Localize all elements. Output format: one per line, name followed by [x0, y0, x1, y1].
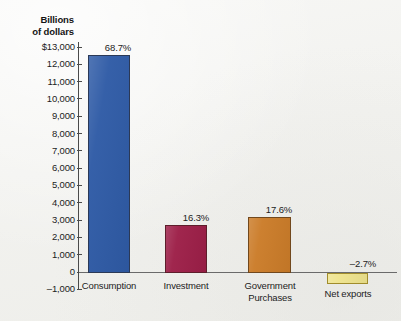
- y-tick-13000: $13,000: [0, 41, 86, 53]
- y-tick-0: 0: [0, 266, 86, 278]
- bar-sheen: [328, 274, 367, 283]
- bar-sheen: [166, 226, 206, 272]
- y-tick-10000: 10,000: [0, 93, 86, 105]
- y-tick-6000: 6,000: [0, 162, 86, 174]
- y-tick-label: 9,000: [3, 110, 75, 122]
- y-tick-1000: 1,000: [0, 249, 86, 261]
- bar-group-net-exports: –2.7% Net exports: [319, 42, 397, 290]
- bar-consumption[interactable]: [88, 55, 130, 273]
- y-tick-label: 7,000: [3, 145, 75, 157]
- y-tick-3000: 3,000: [0, 214, 86, 226]
- bar-net-exports[interactable]: [327, 273, 368, 284]
- y-tick-label: 0: [3, 266, 75, 278]
- bar-group-government-purchases: 17.6% Government Purchases: [235, 42, 319, 290]
- bar-sheen: [249, 218, 290, 272]
- y-tick-label: $13,000: [3, 41, 75, 53]
- y-tick-11000: 11,000: [0, 76, 86, 88]
- bar-government-purchases[interactable]: [248, 217, 291, 273]
- y-tick-label: 3,000: [3, 214, 75, 226]
- y-tick-2000: 2,000: [0, 231, 86, 243]
- gdp-components-bar-chart: Billions of dollars $13,000 12,000 11,00…: [0, 0, 401, 321]
- y-tick-label: 1,000: [3, 249, 75, 261]
- y-tick-label: 5,000: [3, 179, 75, 191]
- y-tick-label: 2,000: [3, 231, 75, 243]
- y-tick-4000: 4,000: [0, 197, 86, 209]
- bar-investment[interactable]: [165, 225, 207, 273]
- y-tick-label: 8,000: [3, 128, 75, 140]
- y-tick-8000: 8,000: [0, 128, 86, 140]
- y-tick-label: 6,000: [3, 162, 75, 174]
- y-tick-label: 11,000: [3, 76, 75, 88]
- y-tick-9000: 9,000: [0, 110, 86, 122]
- bar-group-investment: 16.3% Investment: [157, 42, 235, 290]
- bar-category-label-net-exports: Net exports: [300, 288, 396, 300]
- y-tick-5000: 5,000: [0, 179, 86, 191]
- bar-category-label-investment: Investment: [138, 280, 234, 292]
- y-tick-label: 10,000: [3, 93, 75, 105]
- bar-value-label-consumption: 68.7%: [78, 42, 158, 53]
- y-tick-7000: 7,000: [0, 145, 86, 157]
- bar-group-consumption: 68.7% Consumption: [79, 42, 157, 290]
- bar-value-label-net-exports: –2.7%: [323, 258, 401, 269]
- y-tick-label: 4,000: [3, 197, 75, 209]
- bar-value-label-investment: 16.3%: [156, 212, 236, 223]
- y-tick-12000: 12,000: [0, 58, 86, 70]
- plot-area: 68.7% Consumption 16.3% Investment 17.6%…: [79, 42, 397, 290]
- bar-sheen: [89, 56, 129, 272]
- y-tick-label: 12,000: [3, 58, 75, 70]
- bar-value-label-government-purchases: 17.6%: [239, 204, 319, 215]
